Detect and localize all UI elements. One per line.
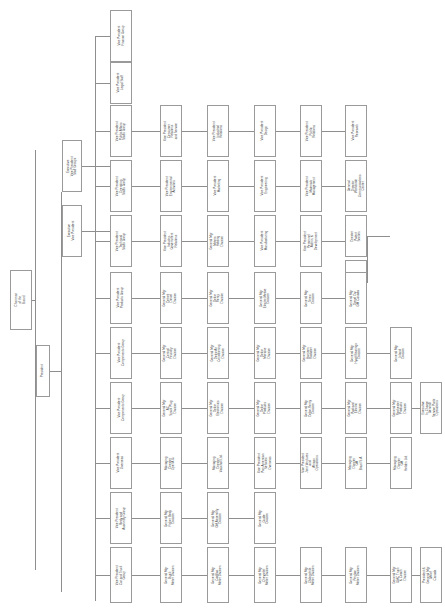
org-node-label: General MgrPontiacMotor Division [351, 565, 362, 585]
org-node-label: General MgrOldsmobileMotor Division [306, 565, 317, 585]
connector-line [182, 463, 207, 464]
org-node-gm_motorsholding[interactable]: General MgrMotorsHoldingDivision [207, 215, 229, 267]
org-node-gm_hyatt[interactable]: General MgrHyatt BearingsDivision [345, 327, 367, 379]
org-node-vp_overseas[interactable]: Vice PresidentOverseas [110, 437, 132, 489]
org-node-label: General MgrTerexDivision [306, 289, 317, 306]
org-node-vp_personnel[interactable]: Vice PresidentPersonnelAdmin. &Developme… [300, 215, 322, 267]
org-node-gm_gmassembly[interactable]: General MgrGM AssemblyDivision [207, 492, 229, 544]
connector-line [276, 408, 300, 409]
org-node-gm_guide[interactable]: General MgrGuideDivision [254, 492, 276, 544]
connector-line [276, 463, 300, 464]
org-node-gm_packard[interactable]: General MgrPackardElectricDivision [345, 382, 367, 434]
org-node-md_vauxhall[interactable]: ManagingDirectorVauxhall Ltd. [207, 437, 229, 489]
connector-line [95, 83, 110, 84]
org-node-label: Vice PresidentCar and TruckGroup [116, 565, 127, 585]
org-node-vp_environ[interactable]: Vice PresidentEnvironmentalActivities [160, 160, 182, 212]
org-node-president[interactable]: President [36, 345, 50, 397]
org-node-gm_delcoprod[interactable]: General MgrDelcoProductsDivision [254, 382, 276, 434]
org-node-gm_cadillac[interactable]: General MgrCadillacMotor Division [207, 547, 229, 603]
org-node-gm_inland[interactable]: General MgrInlandDivision [390, 327, 412, 379]
org-node-label: General MgrCentralFoundryDivision [164, 344, 178, 361]
org-node-vp_materials[interactable]: Vice PresidentMaterialsManagement [300, 160, 322, 212]
org-node-label: ExecutiveIn ChargeGeneralService PartsOp… [422, 399, 440, 417]
org-node-vp_consumer[interactable]: Vice PresidentConsumerRelationsand Servi… [160, 105, 182, 157]
org-node-label: GeneralDirectorWorldwideCommunicationsCe… [347, 175, 365, 198]
org-node-label: General MgrCadillacMotor Division [213, 565, 224, 585]
connector-line [182, 353, 207, 354]
org-node-evp_staff[interactable]: ExecutiveVice PresidentStaff Groups [62, 140, 82, 192]
org-node-vp_cartruck[interactable]: Vice PresidentCar and TruckGroup [110, 547, 132, 603]
org-node-label: General MgrDelco AirConditioningDivision [211, 344, 225, 361]
org-node-vp_operating[interactable]: Vice PresidentOperatingStaffs Group [110, 160, 132, 212]
org-node-gm_fisher[interactable]: General MgrFisher BodyDivision [160, 492, 182, 544]
org-node-vp_technical[interactable]: Vice PresidentTechnicalStaffs Group [110, 215, 132, 267]
org-node-md_holden[interactable]: ManagingDirectorGMHolden Ltd. [390, 437, 412, 489]
org-node-gm_pontiac[interactable]: General MgrPontiacMotor Division [345, 547, 367, 603]
connector-line [229, 353, 254, 354]
org-node-pres_gmcanada[interactable]: President &General MgrGM ofCanada [420, 547, 442, 603]
org-node-gm_harrison[interactable]: General MgrHarrisonRadiatorDivision [300, 327, 322, 379]
org-node-gm_buick[interactable]: General MgrBuickMotor Division [160, 547, 182, 603]
org-node-gm_delcoremy[interactable]: General MgrDelcoRemyDivision [207, 272, 229, 324]
org-node-gm_oldsmobile[interactable]: General MgrOldsmobileMotor Division [300, 547, 322, 603]
connector-line [276, 131, 300, 132]
org-node-vp_componentsb[interactable]: Vice PresidentComponents Group [110, 382, 132, 434]
connector-line [412, 575, 420, 576]
org-node-gm_delcoelec[interactable]: General MgrDelcoElectronicsDivision [207, 382, 229, 434]
org-node-vp_research[interactable]: Vice PresidentResearch [345, 105, 367, 157]
connector-line [229, 298, 254, 299]
org-node-gd_worldwide[interactable]: GeneralDirectorWorldwideCommunicationsCe… [345, 160, 367, 212]
org-node-label: ManagingDirectorGMBrazil S.A. [349, 456, 363, 470]
org-node-label: President [41, 364, 45, 377]
org-node-label: General MgrBuickMotor Division [166, 565, 177, 585]
org-node-vp_engineering[interactable]: Vice PresidentEngineering [254, 160, 276, 212]
org-node-gm_delcoair[interactable]: General MgrDelco AirConditioningDivision [207, 327, 229, 379]
org-node-label: General MgrDelcoMoraineDivision [258, 344, 272, 361]
org-node-gm_detdiesel[interactable]: General MgrDetroitDieselDivision [160, 272, 182, 324]
org-node-vp_legal[interactable]: Vice PresidentLegal Staff [110, 62, 132, 104]
org-node-vp_design[interactable]: Vice PresidentDesign [254, 105, 276, 157]
connector-line [95, 518, 110, 519]
org-node-dir_patent[interactable]: DirectorPatentSection [345, 215, 367, 257]
connector-line [95, 231, 96, 601]
org-node-gm_electromotive[interactable]: General MgrElectro-MotiveDivision [254, 272, 276, 324]
org-node-label: Vice PresidentConsumerRelationsand Servi… [164, 121, 178, 141]
org-chart: Chairmanof theBoardPresidentExecutiveVic… [0, 0, 445, 611]
org-node-gm_centfoundry[interactable]: General MgrCentralFoundryDivision [160, 327, 182, 379]
connector-line [182, 131, 207, 132]
org-node-gm_dieselcanada[interactable]: General MgrDiesel DivGM Canada [345, 272, 367, 324]
org-node-label: General MgrDelco-RemyDivision [306, 399, 317, 416]
org-node-vp_marketing[interactable]: Vice PresidentMarketing [207, 160, 229, 212]
org-node-md_brazil[interactable]: ManagingDirectorGMBrazil S.A. [345, 437, 367, 489]
org-node-vp_pubaffairs[interactable]: Vice PresidentPublic AffairsStaffs Group [110, 105, 132, 157]
connector-line [412, 408, 420, 409]
org-node-vp_indrel[interactable]: Vice PresidentIndustrialRelations [207, 105, 229, 157]
org-node-vp_manufacturing[interactable]: Vice PresidentManufacturing [254, 215, 276, 267]
org-node-vp_prodgroup[interactable]: Vice PresidentProducts Group [110, 272, 132, 324]
connector-line [367, 575, 390, 576]
org-node-label: Vice PresidentMaterialsManagement [306, 176, 317, 196]
org-node-vp_componentsa[interactable]: Vice PresidentComponents Group [110, 327, 132, 379]
org-node-gm_delcomoraine[interactable]: General MgrDelcoMoraineDivision [254, 327, 276, 379]
org-node-vp_public[interactable]: Vice PresidentPublicRelations [300, 105, 322, 157]
org-node-chairman[interactable]: Chairmanof theBoard [10, 270, 32, 330]
connector-line [322, 131, 345, 132]
org-node-gm_chevrolet[interactable]: General MgrChevroletMotor Division [254, 547, 276, 603]
org-node-vp_indgov[interactable]: Vice PresidentIndustry-GovernmentRelatio… [160, 215, 182, 267]
org-node-vp_bodyassy[interactable]: Vice PresidentBody andAssembly Group [110, 492, 132, 544]
org-node-label: Vice PresidentPublicRelations [306, 121, 317, 141]
org-node-gm_delcoremy2[interactable]: General MgrDelco-RemyDivision [300, 382, 322, 434]
connector-line [95, 353, 110, 354]
connector-line [367, 236, 390, 237]
org-node-gm_rochester[interactable]: General MgrRochesterProductsDivision [390, 382, 412, 434]
org-node-vp_panam[interactable]: Vice PresidentPan AmericanVehiclesOverse… [254, 437, 276, 489]
org-node-evp_products[interactable]: ExecutiveVice President [62, 205, 82, 257]
org-node-vp_jointvent[interactable]: Vice PresidentJoint VenturesandAfricanOp… [300, 437, 322, 489]
org-node-md_opel[interactable]: ManagingDirectorOpel A.G. [160, 437, 182, 489]
org-node-gm_terex[interactable]: General MgrTerexDivision [300, 272, 322, 324]
org-node-label: General MgrDiesel DivGM Canada [351, 289, 362, 306]
org-node-vp_finance[interactable]: Vice PresidentFinance Group [110, 10, 132, 62]
org-node-gm_gmctruck[interactable]: General MgrGMC Truck& CoachDivision [390, 547, 412, 603]
org-node-exec_gensvc[interactable]: ExecutiveIn ChargeGeneralService PartsOp… [420, 382, 442, 434]
org-node-gm_acspark[interactable]: General MgrACSpark PlugDivision [160, 382, 182, 434]
